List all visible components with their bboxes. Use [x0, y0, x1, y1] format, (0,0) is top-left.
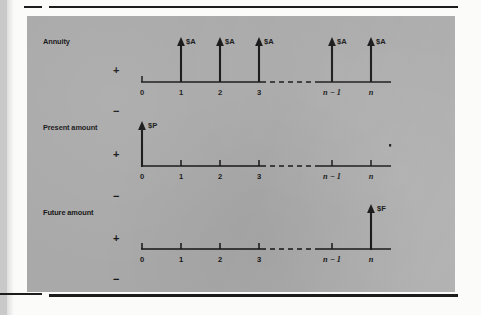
flow-label-annuity-2: $A — [225, 37, 235, 46]
tick-label-future-1: 1 — [179, 255, 184, 264]
cash-flow-row-future-amount: Future amount + − 0 1 2 3 n − 1 n $F — [43, 204, 391, 285]
cash-flow-row-annuity: Annuity + − 0 1 2 3 n − 1 n — [43, 37, 391, 117]
minus-sign-present-amount: − — [113, 190, 119, 202]
flow-label-annuity-1: $A — [186, 37, 196, 46]
tick-label-future-n-1: n − 1 — [323, 255, 341, 264]
minus-sign-future-amount: − — [113, 273, 119, 285]
horizontal-rule-top — [49, 6, 458, 8]
tick-label-future-3: 3 — [257, 255, 261, 264]
tick-label-present-3: 3 — [257, 172, 261, 181]
horizontal-rule-bottom-left — [0, 293, 42, 295]
row-label-annuity: Annuity — [43, 37, 71, 46]
flow-label-annuity-3: $A — [264, 37, 274, 46]
arrowhead-annuity-3 — [255, 37, 263, 46]
cash-flow-arrow-annuity-2: $A — [216, 37, 235, 82]
arrowhead-annuity-n-1 — [328, 37, 336, 46]
arrowhead-annuity-n — [367, 37, 375, 46]
horizontal-rule-bottom — [49, 294, 458, 297]
scan-speck — [389, 144, 391, 147]
plus-sign-present-amount: + — [113, 148, 119, 160]
arrowhead-annuity-2 — [216, 37, 224, 46]
tick-label-present-0: 0 — [140, 172, 144, 181]
plus-sign-future-amount: + — [113, 232, 119, 244]
tick-label-annuity-2: 2 — [218, 88, 222, 97]
arrowhead-present-0 — [138, 121, 146, 130]
tick-label-future-n: n — [369, 255, 374, 264]
tick-label-annuity-n-1: n − 1 — [323, 88, 341, 97]
cash-flow-arrow-annuity-1: $A — [177, 37, 196, 82]
tick-label-annuity-n: n — [369, 88, 374, 97]
page-gutter-shadow — [7, 0, 14, 315]
cash-flow-diagram: Annuity + − 0 1 2 3 n − 1 n — [27, 16, 455, 292]
cash-flow-arrow-annuity-n: $A — [367, 37, 386, 82]
cash-flow-arrow-annuity-3: $A — [255, 37, 274, 82]
tick-label-future-0: 0 — [140, 255, 144, 264]
cash-flow-figure-panel: Annuity + − 0 1 2 3 n − 1 n — [27, 16, 455, 292]
tick-label-annuity-1: 1 — [179, 88, 184, 97]
cash-flow-arrow-future-n: $F — [367, 204, 386, 250]
tick-label-present-1: 1 — [179, 172, 184, 181]
arrowhead-future-n — [367, 204, 375, 213]
page-gutter-strip — [0, 0, 7, 315]
flow-label-present-0: $P — [148, 121, 157, 130]
flow-label-annuity-n: $A — [376, 37, 386, 46]
row-label-present-amount: Present amount — [43, 123, 98, 132]
tick-label-annuity-3: 3 — [257, 88, 261, 97]
tick-label-present-2: 2 — [218, 172, 222, 181]
tick-label-annuity-0: 0 — [140, 88, 144, 97]
flow-label-future-n: $F — [377, 204, 386, 213]
cash-flow-arrow-present-0: $P — [138, 121, 157, 167]
plus-sign-annuity: + — [113, 64, 119, 76]
cash-flow-row-present-amount: Present amount + − 0 1 2 3 n − 1 n $P — [43, 121, 391, 202]
flow-label-annuity-n-1: $A — [337, 37, 347, 46]
minus-sign-annuity: − — [113, 105, 119, 117]
tick-label-present-n: n — [369, 172, 374, 181]
tick-label-present-n-1: n − 1 — [323, 172, 341, 181]
arrowhead-annuity-1 — [177, 37, 185, 46]
tick-label-future-2: 2 — [218, 255, 222, 264]
cash-flow-arrow-annuity-n-1: $A — [328, 37, 347, 82]
horizontal-rule-top-left — [24, 6, 42, 8]
row-label-future-amount: Future amount — [43, 208, 94, 217]
